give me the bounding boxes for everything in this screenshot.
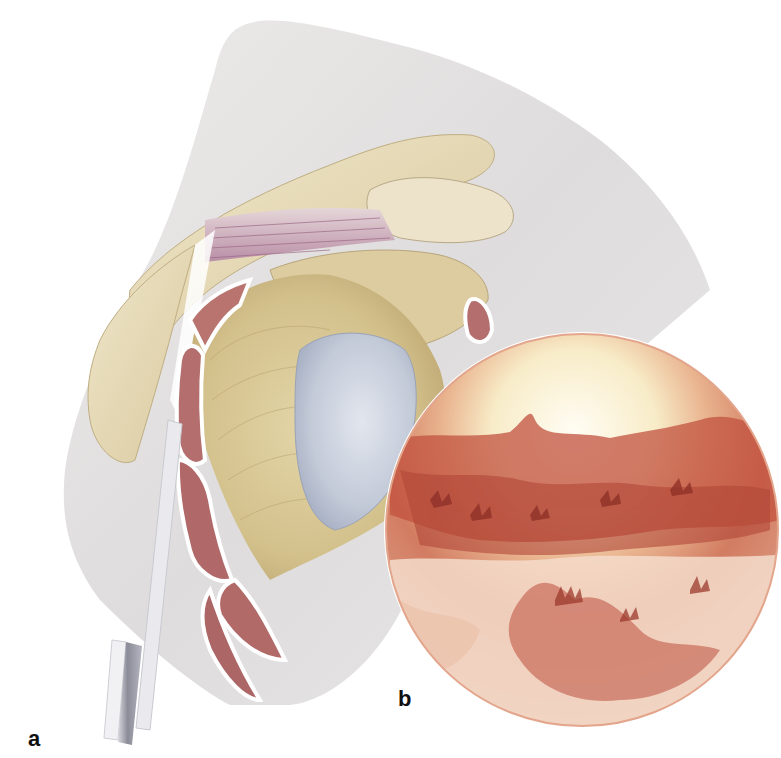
panel-label-b: b xyxy=(398,688,411,710)
arthroscopic-inset xyxy=(384,332,780,740)
panel-label-a: a xyxy=(28,728,40,750)
shoulder-illustration xyxy=(0,0,781,758)
figure: a b xyxy=(0,0,781,758)
